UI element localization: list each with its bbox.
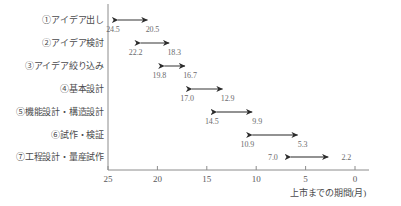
start-value-label: 24.5 [106, 25, 120, 34]
category-label-5: ⑤機能設計・構造設計 [16, 107, 104, 118]
category-label-1: ①アイデア出し [42, 15, 104, 26]
category-label-6: ⑥試作・検証 [51, 130, 104, 141]
start-value-label: 10.9 [240, 140, 254, 149]
category-label-column: ①アイデア出し②アイデア検討③アイデア絞り込み④基本設計⑤機能設計・構造設計⑥試… [0, 0, 104, 206]
start-value-label: 19.8 [153, 71, 167, 80]
x-axis-tick-label: 0 [353, 174, 358, 184]
x-axis-tick-label: 5 [303, 174, 308, 184]
x-axis-tick-label: 20 [153, 174, 162, 184]
x-axis-tick-label: 25 [104, 174, 113, 184]
category-label-7: ⑦工程設計・量産試作 [16, 152, 104, 163]
category-label-3: ③アイデア絞り込み [25, 61, 104, 72]
start-value-label: 14.5 [205, 117, 219, 126]
end-value-label: 20.5 [146, 25, 160, 34]
start-value-label: 17.0 [180, 94, 194, 103]
end-value-label: 18.3 [167, 48, 181, 57]
end-value-label: 16.7 [183, 71, 197, 80]
x-axis-tick-label: 15 [202, 174, 211, 184]
x-axis-tick-label: 10 [252, 174, 261, 184]
end-value-label: 12.9 [221, 94, 235, 103]
end-value-label: 2.2 [341, 153, 351, 162]
category-label-4: ④基本設計 [60, 84, 104, 95]
category-label-2: ②アイデア検討 [42, 38, 104, 49]
end-value-label: 5.3 [298, 140, 308, 149]
start-value-label: 22.2 [129, 48, 143, 57]
end-value-label: 9.9 [252, 117, 262, 126]
x-axis-title: 上市までの期間(月) [290, 188, 366, 199]
start-value-label: 7.0 [268, 153, 278, 162]
